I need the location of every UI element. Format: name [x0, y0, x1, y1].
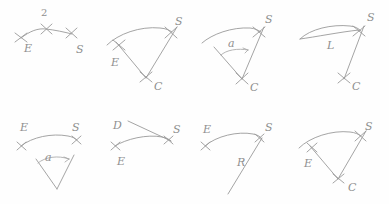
label-end-s-6: S — [173, 124, 181, 135]
cross-mark-s-3 — [253, 27, 265, 37]
label-end-s-2: S — [175, 16, 183, 27]
radius-line-c-s-4 — [344, 26, 364, 79]
label-midpoint-number: 2 — [41, 8, 47, 18]
label-radius-r-7: R — [237, 157, 245, 168]
label-end-s-8: S — [365, 121, 373, 132]
label-direction-d-6: D — [113, 120, 122, 131]
angle-arrow-tip-5 — [64, 157, 69, 162]
angle-arc-5 — [38, 157, 69, 163]
label-center-c-4: C — [352, 81, 360, 92]
label-center-c-8: C — [348, 182, 356, 193]
angle-arc-3 — [221, 49, 248, 55]
label-angle-alpha-3: a — [228, 38, 235, 49]
label-length-l-4: L — [327, 40, 334, 51]
label-start-e-5: E — [20, 122, 28, 133]
label-center-c-2: C — [154, 81, 162, 92]
cross-mark-e-2 — [113, 40, 125, 50]
angle-wedge-right-5 — [57, 155, 74, 189]
label-start-e-1: E — [24, 43, 32, 54]
radius-line-c-s-8 — [338, 131, 366, 179]
arc-curve-1 — [21, 29, 72, 38]
label-end-s-7: S — [265, 122, 273, 133]
radius-line-c-e-8 — [310, 146, 338, 179]
radius-line-c-e-2 — [116, 42, 146, 78]
arc-curve-7 — [205, 133, 262, 146]
panel-2-strokes — [107, 27, 177, 82]
arc-curve-5 — [21, 135, 77, 146]
label-end-s-4: S — [367, 12, 375, 23]
label-end-s-1: S — [76, 44, 84, 55]
label-end-s-5: S — [72, 122, 80, 133]
label-start-e-6: E — [117, 156, 125, 167]
label-start-e-8: E — [304, 158, 312, 169]
panel-1-strokes — [15, 24, 77, 42]
panel-7-strokes — [201, 133, 264, 194]
cross-mark-c-4 — [338, 73, 350, 83]
panel-3-strokes — [202, 27, 265, 84]
cross-mark-c-3 — [236, 73, 248, 84]
label-center-c-3: C — [250, 82, 258, 93]
sketch-sheet: 2 E S S E C S a C S L C E S a D S E E S … — [0, 0, 389, 204]
cross-mark-e-8 — [307, 143, 317, 152]
cross-mark-e-6 — [111, 142, 120, 150]
panel-4-strokes — [300, 26, 365, 83]
cross-mark-s-5 — [72, 136, 81, 144]
cross-mark-e-1 — [15, 33, 27, 42]
cross-mark-s-4 — [353, 26, 365, 36]
arc-curve-6 — [115, 136, 171, 146]
arc-curve-8 — [299, 132, 361, 148]
cross-mark-e-7 — [201, 142, 210, 150]
cross-mark-e-5 — [17, 142, 26, 150]
label-start-e-2: E — [111, 57, 119, 68]
label-angle-alpha-5: a — [45, 152, 52, 163]
cross-mark-s-7 — [255, 134, 264, 142]
cross-mark-s-6 — [164, 136, 173, 144]
cross-mark-c-2 — [140, 72, 152, 82]
radius-line-c-s-2 — [146, 27, 177, 78]
label-end-s-3: S — [265, 14, 273, 25]
cross-mark-c-8 — [333, 174, 344, 183]
arc-curve-4 — [300, 26, 361, 39]
label-start-e-7: E — [203, 124, 211, 135]
chord-line-4 — [300, 30, 359, 39]
angle-arrow-tip-3 — [243, 48, 248, 53]
sketch-canvas — [0, 0, 389, 204]
